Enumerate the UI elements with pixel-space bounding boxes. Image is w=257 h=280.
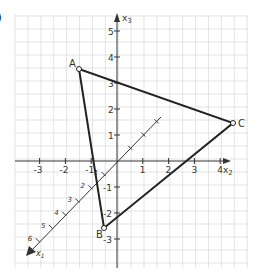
x1-tick-label: 6 — [28, 235, 33, 243]
x2-tick-label: -3 — [34, 165, 43, 175]
point-a — [77, 67, 82, 72]
x2-tick-label: 1 — [140, 165, 146, 175]
x1-axis-label: x1 — [35, 249, 45, 259]
x2-tick-label: -1 — [85, 165, 94, 175]
x1-tick-label: 5 — [41, 222, 46, 230]
x3-tick-label: 4 — [108, 53, 114, 63]
x3-tick-label: 1 — [108, 131, 114, 141]
x1-tick-label: 2 — [81, 182, 86, 190]
x1-tick-label: 3 — [67, 196, 71, 204]
x1-axis: 123456 x1 — [26, 117, 161, 259]
x2-tick-label: -2 — [59, 165, 68, 175]
x2-axis: -3-2-11234 x2 — [15, 158, 233, 177]
grid — [15, 15, 248, 268]
x1-tick-label: 4 — [54, 209, 58, 217]
point-b-label: B — [96, 229, 103, 240]
x3-tick-label: 2 — [108, 105, 114, 115]
x3-axis-label: x3 — [122, 13, 132, 25]
part-label: ) — [0, 10, 2, 25]
coordinate-system: 123456 x1 -3-2-11234 x2 54321-1-2-3 x3 — [0, 0, 257, 280]
x3-axis: 54321-1-2-3 x3 — [103, 13, 132, 268]
point-c — [231, 121, 236, 126]
x2-axis-label: x2 — [223, 165, 233, 177]
x3-tick-label: -2 — [103, 209, 112, 219]
x3-tick-label: 5 — [108, 27, 114, 37]
point-a-label: A — [69, 58, 76, 69]
point-c-label: C — [238, 118, 245, 129]
x3-arrow-icon — [114, 13, 120, 22]
x3-tick-label: -1 — [103, 183, 112, 193]
x3-tick-label: -3 — [103, 235, 112, 245]
x2-tick-label: 3 — [191, 165, 197, 175]
coordinate-figure: ) 123456 x1 -3-2-11234 x2 54321-1-2-3 — [0, 0, 257, 280]
